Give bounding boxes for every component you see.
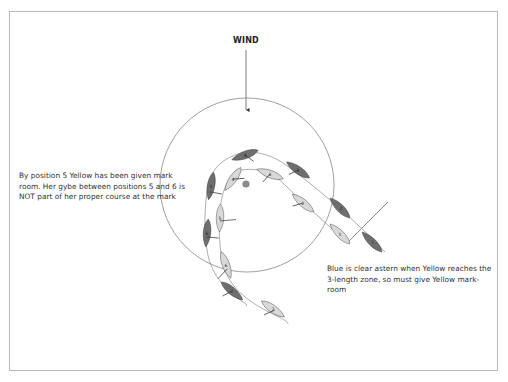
note-left: By position 5 Yellow has been given mark… bbox=[19, 171, 189, 203]
yellow-pos-2: 2 bbox=[302, 201, 305, 206]
blue-pos-2: 2 bbox=[340, 206, 343, 211]
blue-pos-6: 6 bbox=[206, 231, 209, 236]
yellow-pos-1: 1 bbox=[339, 232, 342, 237]
yellow-pos-4: 4 bbox=[232, 177, 235, 182]
yellow-track bbox=[219, 169, 344, 324]
yellow-pos-5: 5 bbox=[219, 216, 222, 221]
note-right: Blue is clear astern when Yellow reaches… bbox=[327, 264, 497, 296]
blue-pos-5: 5 bbox=[210, 184, 213, 189]
yellow-pos-7: 7 bbox=[272, 307, 275, 312]
blue-pos-7: 7 bbox=[231, 289, 234, 294]
mark-buoy bbox=[242, 180, 249, 187]
blue-pos-3: 3 bbox=[297, 168, 300, 173]
wind-label: WIND bbox=[233, 36, 259, 45]
yellow-boat-6 bbox=[210, 251, 234, 283]
yellow-pos-6: 6 bbox=[225, 263, 228, 268]
yellow-pos-3: 3 bbox=[269, 172, 272, 177]
blue-pos-1: 1 bbox=[372, 240, 375, 245]
blue-pos-4: 4 bbox=[244, 153, 247, 158]
